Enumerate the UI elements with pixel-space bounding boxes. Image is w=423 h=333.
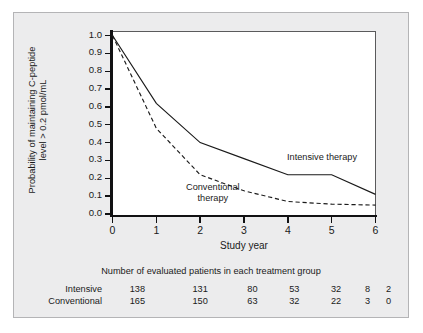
x-tick-label: 5 bbox=[322, 224, 342, 236]
y-tick-label: 0.4 bbox=[89, 136, 102, 147]
x-tick-mark bbox=[156, 217, 157, 223]
risk-table-cell: 2 bbox=[378, 283, 399, 295]
x-tick-label: 3 bbox=[234, 224, 254, 236]
risk-table-cell: 165 bbox=[106, 295, 169, 307]
y-tick-label: 0.7 bbox=[89, 82, 102, 93]
y-tick-label: 0.2 bbox=[89, 171, 102, 182]
y-axis-title: Probability of maintaining C-peptide lev… bbox=[21, 20, 55, 220]
risk-table-cell: 150 bbox=[169, 295, 232, 307]
risk-table-cell: 80 bbox=[232, 283, 274, 295]
y-tick-label: 0.6 bbox=[89, 100, 102, 111]
risk-table-row-label: Intensive bbox=[24, 283, 106, 295]
y-tick-mark bbox=[105, 213, 111, 214]
risk-table-cell: 8 bbox=[357, 283, 378, 295]
x-tick-label: 6 bbox=[366, 224, 386, 236]
annotation-intensive-therapy: Intensive therapy bbox=[287, 152, 357, 162]
y-tick-label: 1.0 bbox=[89, 29, 102, 40]
y-axis-title-line2: level > 0.2 pmol/mL bbox=[38, 80, 50, 161]
x-tick-label: 2 bbox=[190, 224, 210, 236]
x-tick-mark bbox=[287, 217, 288, 223]
figure-container: Probability of maintaining C-peptide lev… bbox=[0, 0, 423, 333]
y-tick-mark bbox=[105, 106, 111, 107]
x-tick-mark bbox=[112, 217, 113, 223]
x-tick-mark bbox=[199, 217, 200, 223]
y-tick-mark bbox=[105, 142, 111, 143]
x-tick-mark bbox=[331, 217, 332, 223]
risk-table-cell: 32 bbox=[273, 295, 315, 307]
risk-table-title: Number of evaluated patients in each tre… bbox=[13, 266, 409, 276]
x-axis-title: Study year bbox=[112, 240, 376, 251]
y-axis-line bbox=[110, 30, 113, 217]
risk-table-cell: 0 bbox=[378, 295, 399, 307]
risk-table-cell: 138 bbox=[106, 283, 169, 295]
y-tick-mark bbox=[105, 88, 111, 89]
risk-table-row-label: Conventional bbox=[24, 295, 106, 307]
x-tick-label: 0 bbox=[103, 224, 123, 236]
risk-table-cell: 131 bbox=[169, 283, 232, 295]
x-tick-mark bbox=[243, 217, 244, 223]
x-tick-label: 1 bbox=[146, 224, 166, 236]
y-axis-title-line1: Probability of maintaining C-peptide bbox=[27, 47, 39, 194]
x-tick-mark bbox=[375, 217, 376, 223]
y-tick-mark bbox=[105, 178, 111, 179]
annotation-conventional-therapy: Conventional therapy bbox=[186, 182, 240, 204]
y-tick-mark bbox=[105, 35, 111, 36]
risk-table-cell: 32 bbox=[315, 283, 357, 295]
risk-table-cell: 22 bbox=[315, 295, 357, 307]
y-tick-mark bbox=[105, 195, 111, 196]
risk-table-row: Intensive13813180533282 bbox=[24, 283, 399, 295]
y-tick-label: 0.9 bbox=[89, 46, 102, 57]
y-tick-label: 0.0 bbox=[89, 207, 102, 218]
y-tick-label: 0.3 bbox=[89, 153, 102, 164]
annotation-conventional-line1: Conventional bbox=[186, 182, 240, 193]
risk-table-row: Conventional16515063322230 bbox=[24, 295, 399, 307]
y-tick-mark bbox=[105, 71, 111, 72]
risk-table-cell: 3 bbox=[357, 295, 378, 307]
risk-table: Intensive13813180533282Conventional16515… bbox=[24, 283, 399, 307]
y-tick-mark bbox=[105, 160, 111, 161]
x-tick-label: 4 bbox=[278, 224, 298, 236]
y-tick-mark bbox=[105, 53, 111, 54]
annotation-conventional-line2: therapy bbox=[186, 193, 240, 204]
y-tick-mark bbox=[105, 124, 111, 125]
y-tick-label: 0.1 bbox=[89, 189, 102, 200]
plot-area bbox=[112, 31, 376, 216]
risk-table-cell: 53 bbox=[273, 283, 315, 295]
y-tick-label: 0.5 bbox=[89, 118, 102, 129]
y-tick-label: 0.8 bbox=[89, 64, 102, 75]
risk-table-cell: 63 bbox=[232, 295, 274, 307]
